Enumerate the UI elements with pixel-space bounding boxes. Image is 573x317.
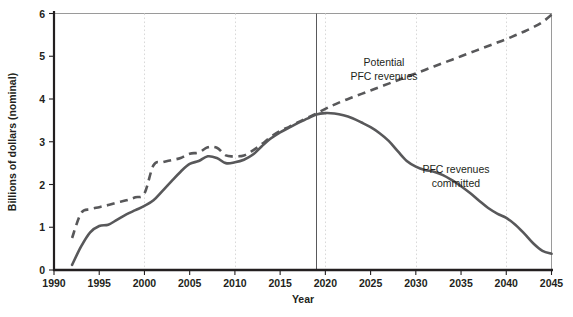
x-tick-label-2045: 2045 (540, 277, 564, 289)
annotation-potential-line1: Potential (364, 56, 405, 68)
y-axis-title: Billions of dollars (nominal) (6, 73, 18, 211)
y-tick-label-1: 1 (39, 221, 45, 233)
x-tick-label-2040: 2040 (495, 277, 519, 289)
y-tick-label-5: 5 (39, 50, 45, 62)
y-tick-label-0: 0 (39, 264, 45, 276)
y-tick-label-2: 2 (39, 179, 45, 191)
x-tick-label-2010: 2010 (223, 277, 247, 289)
x-tick-label-2025: 2025 (359, 277, 383, 289)
y-tick-label-4: 4 (39, 93, 45, 105)
x-tick-label-2000: 2000 (133, 277, 157, 289)
y-tick-label-6: 6 (39, 8, 45, 20)
annotation-potential-line2: PFC revenues (350, 70, 417, 82)
x-tick-label-1990: 1990 (42, 277, 66, 289)
y-tick-label-3: 3 (39, 136, 45, 148)
x-tick-label-1995: 1995 (88, 277, 112, 289)
line-chart: 0123456 19901995200020052010201520202025… (0, 0, 573, 317)
x-tick-label-2015: 2015 (268, 277, 292, 289)
annotation-committed-line1: PFC revenues (422, 163, 489, 175)
x-tick-label-2020: 2020 (314, 277, 338, 289)
annotation-committed-line2: committed (432, 177, 481, 189)
x-tick-label-2030: 2030 (404, 277, 428, 289)
x-tick-label-2005: 2005 (178, 277, 202, 289)
x-tick-label-2035: 2035 (449, 277, 473, 289)
x-axis-title: Year (292, 293, 314, 305)
chart-container: 0123456 19901995200020052010201520202025… (0, 0, 573, 317)
